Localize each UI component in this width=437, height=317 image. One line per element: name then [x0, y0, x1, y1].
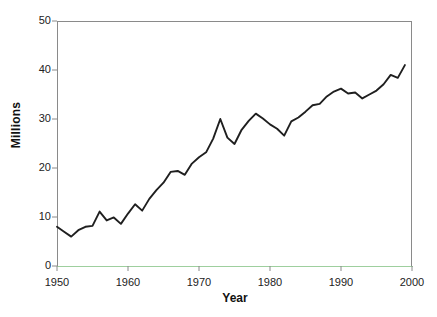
y-tick-label-text: 40: [25, 64, 51, 75]
x-tick-label-text: 1950: [45, 276, 69, 288]
x-tick-label: 1950: [27, 272, 87, 290]
y-tick-label: 50: [22, 15, 51, 26]
y-tick-label-text: 20: [25, 162, 51, 173]
y-tick-label-text: 30: [25, 113, 51, 124]
x-tick-label-text: 2000: [400, 276, 424, 288]
y-tick-label: 10: [22, 211, 51, 222]
y-tick-label-text: 10: [25, 211, 51, 222]
x-axis-ticks: [57, 266, 412, 271]
x-tick-label: 1970: [169, 272, 229, 290]
y-tick-label: 0: [22, 260, 51, 271]
x-tick-label-text: 1990: [329, 276, 353, 288]
y-tick-label: 20: [22, 162, 51, 173]
chart-canvas: [0, 0, 437, 317]
line-chart: 01020304050 195019601970198019902000 Mil…: [0, 0, 437, 317]
y-tick-label-text: 50: [25, 15, 51, 26]
y-tick-label: 30: [22, 113, 51, 124]
data-series-line: [57, 65, 405, 237]
x-tick-label: 1980: [240, 272, 300, 290]
x-tick-label-text: 1980: [258, 276, 282, 288]
x-tick-label: 1960: [98, 272, 158, 290]
x-axis-title: Year: [57, 291, 413, 305]
y-axis-ticks: [52, 21, 57, 266]
x-tick-label: 2000: [382, 272, 437, 290]
y-tick-label: 40: [22, 64, 51, 75]
x-tick-label-text: 1960: [116, 276, 140, 288]
y-axis-title: Millions: [9, 85, 23, 165]
y-tick-label-text: 0: [25, 260, 51, 271]
x-tick-label-text: 1970: [187, 276, 211, 288]
x-tick-label: 1990: [311, 272, 371, 290]
